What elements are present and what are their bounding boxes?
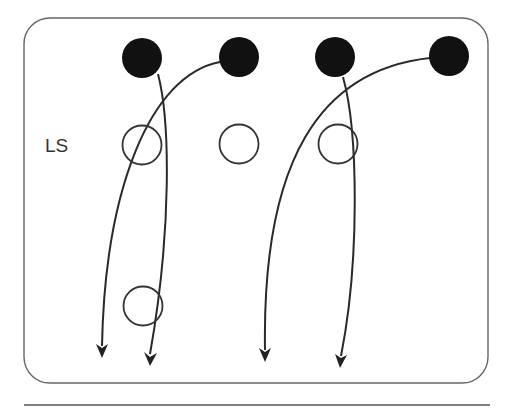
field-frame (24, 18, 488, 383)
ls-label: LS (45, 135, 68, 157)
filled-player-circle (429, 36, 469, 76)
arrowhead-icon (259, 348, 271, 362)
open-player-circle (220, 125, 259, 164)
open-player-circle (319, 125, 358, 164)
route-arrow-3 (341, 77, 355, 356)
open-player-circle (123, 126, 162, 165)
arrowhead-icon (335, 354, 347, 368)
route-arrow-2 (102, 62, 220, 346)
arrowhead-icon (144, 352, 157, 366)
play-diagram (0, 0, 514, 408)
filled-player-circle (219, 37, 259, 77)
filled-player-circle (122, 38, 162, 78)
filled-player-circle (315, 37, 355, 77)
arrowhead-icon (96, 344, 108, 358)
